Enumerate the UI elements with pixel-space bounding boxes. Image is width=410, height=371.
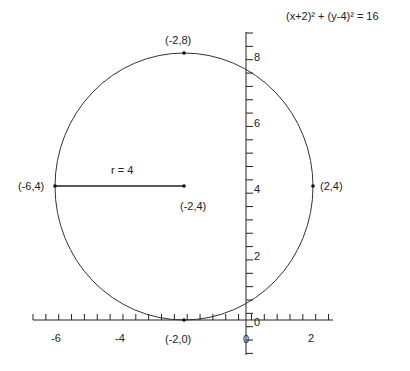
point-top [182, 51, 186, 55]
y-axis [246, 32, 253, 355]
y-tick-label: 4 [254, 183, 260, 195]
point-bottom-label: (-2,0) [165, 333, 191, 345]
point-right-label: (2,4) [320, 180, 343, 192]
x-tick-label: 2 [308, 332, 314, 344]
point-left [53, 184, 57, 188]
y-tick-label: 6 [254, 117, 260, 129]
y-tick-label: 0 [254, 316, 260, 328]
circle-graph: (x+2)² + (y-4)² = 16 (-2,8) r = 4 (-6,4)… [0, 0, 410, 371]
point-center-label: (-2,4) [180, 200, 206, 212]
point-right [311, 184, 315, 188]
x-tick-label: -4 [115, 332, 125, 344]
x-tick-label: -6 [51, 332, 61, 344]
point-center [182, 184, 186, 188]
point-top-label: (-2,8) [165, 34, 191, 46]
x-tick-label: 0 [243, 333, 249, 345]
equation-label: (x+2)² + (y-4)² = 16 [286, 10, 379, 22]
y-tick-label: 8 [254, 51, 260, 63]
radius-label: r = 4 [111, 164, 133, 176]
y-tick-label: 2 [254, 250, 260, 262]
point-bottom [182, 318, 186, 322]
point-left-label: (-6,4) [18, 180, 44, 192]
